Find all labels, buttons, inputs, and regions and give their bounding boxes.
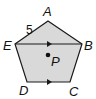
label-c: C [69, 84, 79, 99]
label-p: P [51, 54, 60, 69]
label-b: B [84, 38, 93, 53]
pentagon-diagram: A B C D E P 5 [0, 0, 96, 99]
side-length-label: 5 [26, 23, 33, 37]
label-e: E [3, 38, 12, 53]
label-d: D [19, 83, 28, 98]
point-p [46, 53, 51, 58]
label-a: A [42, 4, 52, 19]
